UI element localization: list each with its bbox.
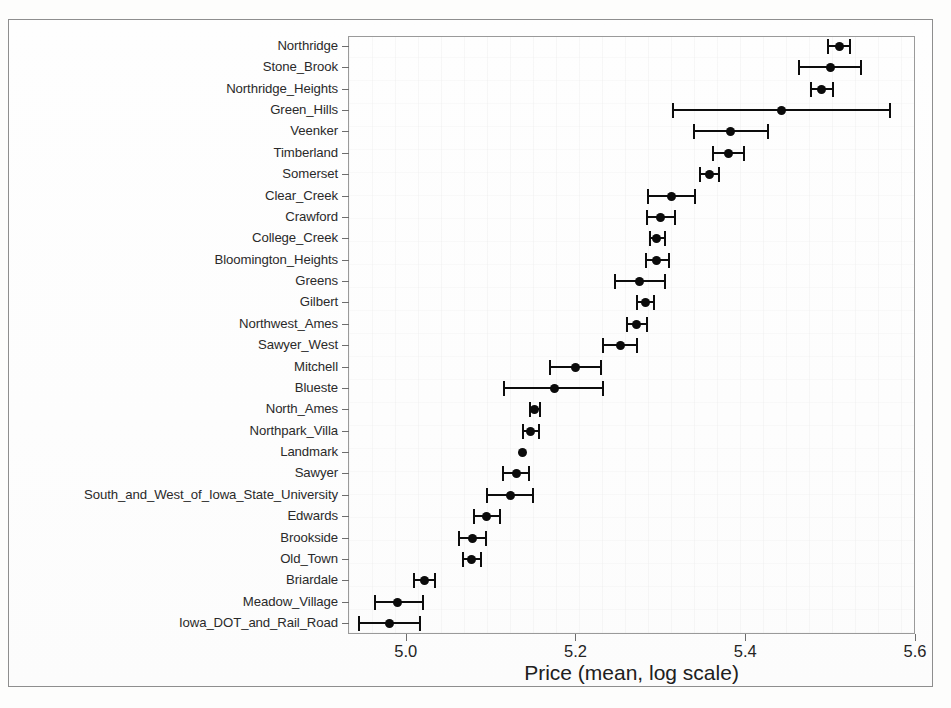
y-axis-label-northridge: Northridge — [277, 39, 338, 53]
y-axis-label-northwest_ames: Northwest_Ames — [239, 317, 338, 331]
mean-point — [632, 320, 641, 329]
y-axis-label-northpark_villa: Northpark_Villa — [250, 424, 338, 438]
mean-point — [724, 149, 733, 158]
y-axis-label-landmark: Landmark — [280, 445, 338, 459]
confidence-interval-cap-upper — [718, 167, 720, 182]
y-axis-label-old_town: Old_Town — [280, 552, 338, 566]
y-axis-label-edwards: Edwards — [287, 509, 338, 523]
y-tick — [342, 602, 349, 603]
confidence-interval-cap-lower — [602, 338, 604, 353]
y-axis-label-northridge_heights: Northridge_Heights — [226, 82, 338, 96]
x-axis-title: Price (mean, log scale) — [348, 661, 915, 685]
mean-point — [835, 42, 844, 51]
confidence-interval-cap-lower — [458, 531, 460, 546]
mean-point — [385, 619, 394, 628]
mean-point — [826, 63, 835, 72]
confidence-interval-cap-lower — [614, 274, 616, 289]
confidence-interval-cap-upper — [480, 552, 482, 567]
confidence-interval-cap-lower — [636, 295, 638, 310]
error-bar-chart: NorthridgeStone_BrookNorthridge_HeightsG… — [0, 0, 951, 708]
y-tick — [342, 409, 349, 410]
y-tick — [342, 345, 349, 346]
confidence-interval-cap-lower — [672, 103, 674, 118]
y-tick — [342, 260, 349, 261]
y-tick — [342, 196, 349, 197]
confidence-interval-cap-lower — [522, 424, 524, 439]
mean-point — [512, 469, 521, 478]
y-axis-label-mitchell: Mitchell — [294, 360, 338, 374]
y-axis-label-greens: Greens — [295, 274, 338, 288]
confidence-interval-cap-upper — [860, 60, 862, 75]
confidence-interval-cap-lower — [473, 509, 475, 524]
confidence-interval-cap-upper — [528, 466, 530, 481]
confidence-interval-cap-upper — [664, 274, 666, 289]
y-axis-label-crawford: Crawford — [285, 210, 338, 224]
y-tick — [342, 516, 349, 517]
y-tick — [342, 559, 349, 560]
confidence-interval-cap-upper — [668, 253, 670, 268]
confidence-interval-cap-lower — [693, 124, 695, 139]
y-tick — [342, 452, 349, 453]
confidence-interval-cap-lower — [486, 488, 488, 503]
y-tick — [342, 495, 349, 496]
y-tick — [342, 89, 349, 90]
confidence-interval-cap-upper — [832, 82, 834, 97]
y-tick — [342, 324, 349, 325]
mean-point — [656, 213, 665, 222]
confidence-interval-cap-lower — [462, 552, 464, 567]
y-tick — [342, 46, 349, 47]
x-tick-label: 5.0 — [366, 642, 446, 661]
mean-point — [506, 491, 515, 500]
x-tick-label: 5.4 — [705, 642, 785, 661]
y-tick — [342, 238, 349, 239]
y-axis-label-sawyer: Sawyer — [295, 466, 338, 480]
y-tick — [342, 131, 349, 132]
confidence-interval-cap-upper — [694, 189, 696, 204]
confidence-interval-cap-lower — [626, 317, 628, 332]
y-axis-label-meadow_village: Meadow_Village — [243, 595, 338, 609]
confidence-interval-cap-upper — [532, 488, 534, 503]
confidence-interval-cap-lower — [645, 253, 647, 268]
x-tick — [406, 634, 407, 641]
y-tick — [342, 623, 349, 624]
confidence-interval-cap-upper — [419, 616, 421, 631]
mean-point — [817, 85, 826, 94]
mean-point — [667, 192, 676, 201]
confidence-interval-cap-upper — [653, 295, 655, 310]
y-axis-label-timberland: Timberland — [274, 146, 338, 160]
y-tick — [342, 110, 349, 111]
y-axis-label-stone_brook: Stone_Brook — [263, 60, 338, 74]
confidence-interval-cap-upper — [499, 509, 501, 524]
y-tick — [342, 367, 349, 368]
mean-point — [482, 512, 491, 521]
x-tick-label: 5.6 — [875, 642, 951, 661]
confidence-interval-cap-lower — [827, 39, 829, 54]
y-axis-label-brookside: Brookside — [280, 531, 338, 545]
x-tick — [575, 634, 576, 641]
y-axis-label-green_hills: Green_Hills — [270, 103, 338, 117]
mean-point — [652, 256, 661, 265]
confidence-interval-cap-upper — [538, 424, 540, 439]
confidence-interval-cap-upper — [767, 124, 769, 139]
confidence-interval-cap-upper — [434, 573, 436, 588]
y-tick — [342, 473, 349, 474]
y-tick — [342, 580, 349, 581]
y-axis-label-somerset: Somerset — [282, 167, 338, 181]
y-tick — [342, 388, 349, 389]
x-tick — [915, 634, 916, 641]
y-tick — [342, 431, 349, 432]
y-tick — [342, 67, 349, 68]
scanned-page: NorthridgeStone_BrookNorthridge_HeightsG… — [0, 0, 951, 708]
y-axis-label-iowa_dot_and_rail_road: Iowa_DOT_and_Rail_Road — [179, 616, 338, 630]
confidence-interval-cap-upper — [422, 595, 424, 610]
y-axis-label-south_and_west_of_iowa_state_university: South_and_West_of_Iowa_State_University — [84, 488, 338, 502]
confidence-interval-cap-lower — [374, 595, 376, 610]
confidence-interval-cap-upper — [849, 39, 851, 54]
confidence-interval-cap-upper — [889, 103, 891, 118]
mean-point — [571, 363, 580, 372]
confidence-interval-cap-lower — [549, 360, 551, 375]
x-tick — [745, 634, 746, 641]
y-tick — [342, 174, 349, 175]
y-tick — [342, 281, 349, 282]
x-tick-label: 5.2 — [535, 642, 615, 661]
